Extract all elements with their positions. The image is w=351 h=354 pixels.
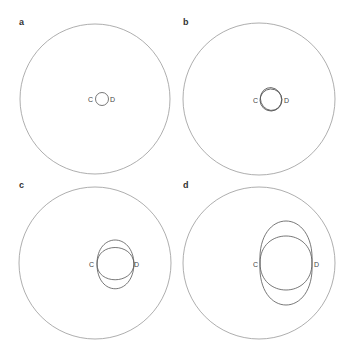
point-d-label: D — [134, 261, 139, 268]
point-c-label: C — [88, 96, 93, 103]
panel-b: b C D — [175, 0, 350, 177]
diagram-a: C D — [0, 0, 175, 177]
point-c-label: C — [253, 97, 258, 104]
point-d-label: D — [110, 96, 115, 103]
diagram-c: C D — [0, 177, 175, 354]
panel-d: d C D — [175, 177, 350, 354]
panel-a: a C D — [0, 0, 175, 177]
point-c-label: C — [253, 261, 258, 268]
panel-c: c C D — [0, 177, 175, 354]
point-c-label: C — [89, 261, 94, 268]
point-d-label: D — [314, 261, 319, 268]
diagram-b: C D — [175, 0, 351, 177]
point-d-label: D — [284, 97, 289, 104]
diagram-d: C D — [175, 177, 351, 354]
